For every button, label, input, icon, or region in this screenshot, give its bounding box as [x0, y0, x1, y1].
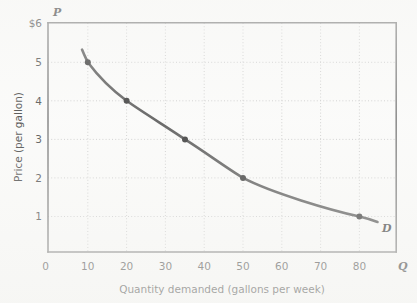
- x-tick-label-70: 70: [314, 260, 327, 272]
- grid-group: [48, 23, 397, 252]
- x-tick-label-0: 0: [42, 260, 49, 272]
- x-tick-label-30: 30: [159, 260, 172, 272]
- y-tick-label-6: $6: [29, 17, 43, 29]
- y-axis-symbol-p: P: [52, 6, 62, 19]
- x-tick-label-40: 40: [198, 260, 211, 272]
- y-tick-label-2: 2: [35, 172, 42, 184]
- demand-curve-figure: $6 5 4 3 2 1 0 10 20 30 40 50 60 70 80 P…: [0, 0, 417, 303]
- y-tick-labels-group: $6 5 4 3 2 1: [29, 17, 43, 223]
- data-point-80-1: [356, 214, 362, 220]
- axes-group: [47, 22, 397, 253]
- y-tick-label-5: 5: [35, 56, 42, 68]
- y-tick-label-3: 3: [35, 133, 42, 145]
- chart-canvas: $6 5 4 3 2 1 0 10 20 30 40 50 60 70 80 P…: [0, 0, 417, 303]
- x-tick-labels-group: 0 10 20 30 40 50 60 70 80: [42, 260, 366, 272]
- x-axis-title: Quantity demanded (gallons per week): [119, 283, 325, 295]
- data-point-55-2: [240, 175, 246, 181]
- x-tick-label-10: 10: [81, 260, 94, 272]
- data-point-10-5: [85, 59, 91, 65]
- x-tick-label-50: 50: [236, 260, 249, 272]
- y-tick-label-1: 1: [35, 210, 42, 222]
- x-tick-label-80: 80: [353, 260, 366, 272]
- x-axis-symbol-q: Q: [398, 260, 408, 273]
- data-point-20-4: [124, 98, 130, 104]
- x-tick-label-60: 60: [275, 260, 288, 272]
- demand-curve-label: D: [381, 222, 392, 235]
- y-tick-label-4: 4: [35, 95, 42, 107]
- y-axis-title: Price (per gallon): [12, 92, 24, 182]
- data-point-35-3: [182, 136, 188, 142]
- x-tick-label-20: 20: [120, 260, 133, 272]
